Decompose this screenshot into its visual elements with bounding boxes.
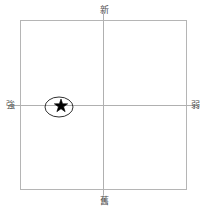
axis-label-right: 弱	[188, 100, 202, 110]
axis-label-bottom: 舊	[1, 196, 207, 206]
axis-label-left: 強	[3, 100, 17, 110]
chart-canvas	[0, 0, 207, 218]
quadrant-chart: 新 舊 強 弱	[0, 0, 207, 218]
axis-label-top: 新	[1, 5, 207, 15]
